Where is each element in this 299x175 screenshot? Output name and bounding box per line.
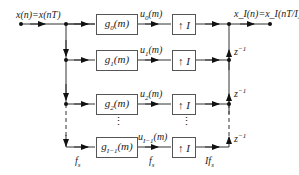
delay-label-2: z−1 — [234, 133, 246, 144]
rate-label-output: Ifs — [205, 156, 214, 169]
delay-label-0: z−1 — [234, 46, 246, 57]
filter-label-3: gI−1(m) — [101, 140, 132, 155]
rate-label-input: fs — [75, 156, 81, 169]
upsampler-box-0: ↑ I — [172, 14, 196, 35]
signal-label-0: u0(m) — [140, 9, 162, 22]
filter-box-1: g1(m) — [96, 50, 138, 71]
ellipsis-filters: ⋮ — [113, 116, 124, 127]
rate-label-middle: fs — [149, 156, 155, 169]
delay-label-1: z−1 — [234, 88, 246, 99]
input-label: x(n)=x(nT) — [16, 10, 61, 20]
signal-label-2: u2(m) — [140, 89, 162, 102]
signal-label-1: u1(m) — [140, 45, 162, 58]
upsampler-box-1: ↑ I — [172, 50, 196, 71]
signal-label-3: uI−1(m) — [138, 132, 167, 145]
ellipsis-upsamplers: ⋮ — [181, 116, 192, 127]
output-label: x_I(n)=x_I(nT/I) — [234, 9, 299, 19]
upsampler-box-3: ↑ I — [172, 137, 196, 158]
filter-box-3: gI−1(m) — [96, 137, 138, 158]
filter-box-2: g2(m) — [96, 94, 138, 115]
filter-label-2: g2(m) — [105, 97, 129, 112]
filter-box-0: g0(m) — [96, 14, 138, 35]
filter-label-0: g0(m) — [105, 17, 129, 32]
filter-label-1: g1(m) — [105, 53, 129, 68]
upsampler-box-2: ↑ I — [172, 94, 196, 115]
